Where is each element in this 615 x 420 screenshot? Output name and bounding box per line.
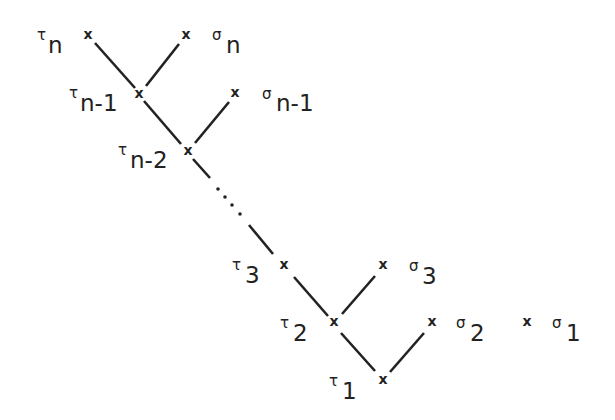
label-subscript: n-1 bbox=[276, 90, 314, 116]
node-mark-sigma-3: x bbox=[378, 256, 387, 272]
edge-ellipsis-to-tau-3 bbox=[249, 225, 273, 254]
edge-sigma-3-to-tau-2 bbox=[342, 276, 375, 314]
node-mark-tau-n: x bbox=[83, 26, 92, 42]
edge-tau-n-2-to-ellipsis bbox=[193, 159, 210, 178]
label-symbol: σ bbox=[262, 85, 272, 103]
label-symbol: σ bbox=[212, 26, 222, 44]
label-subscript: 1 bbox=[566, 320, 581, 346]
label-symbol: σ bbox=[409, 257, 419, 275]
ellipsis-dots bbox=[216, 187, 242, 216]
edge-sigma-n-to-tau-n-1 bbox=[146, 44, 179, 86]
node-mark-tau-1: x bbox=[378, 371, 387, 387]
edge-sigma-2-to-tau-1 bbox=[390, 333, 424, 372]
edge-sigma-n-1-to-tau-n-2 bbox=[195, 102, 229, 143]
node-mark-sigma-n-1: x bbox=[230, 84, 239, 100]
label-symbol: τ bbox=[232, 256, 241, 274]
edge-tau-n-1-to-tau-n-2 bbox=[144, 101, 181, 144]
label-symbol: σ bbox=[456, 314, 466, 332]
label-subscript: 2 bbox=[293, 320, 308, 346]
node-mark-tau-n-1: x bbox=[134, 85, 143, 101]
node-mark-tau-n-2: x bbox=[183, 142, 192, 158]
label-subscript: 3 bbox=[422, 263, 437, 289]
label-symbol: τ bbox=[280, 314, 289, 332]
label-subscript: n-1 bbox=[80, 90, 118, 116]
label-symbol: τ bbox=[329, 372, 338, 390]
edge-tau-2-to-tau-1 bbox=[341, 333, 375, 371]
label-symbol: τ bbox=[69, 84, 78, 102]
edge-tau-n-to-tau-n-1 bbox=[95, 43, 135, 88]
tree-edges bbox=[0, 0, 615, 420]
label-subscript: 3 bbox=[245, 262, 260, 288]
label-symbol: τ bbox=[118, 141, 127, 159]
node-mark-sigma-2: x bbox=[427, 313, 436, 329]
label-symbol: τ bbox=[37, 26, 46, 44]
node-mark-tau-2: x bbox=[329, 313, 338, 329]
label-subscript: 1 bbox=[342, 378, 357, 404]
label-subscript: n bbox=[48, 32, 63, 58]
node-mark-sigma-1: x bbox=[522, 313, 531, 329]
label-symbol: σ bbox=[552, 314, 562, 332]
node-mark-tau-3: x bbox=[279, 256, 288, 272]
label-subscript: n-2 bbox=[130, 147, 168, 173]
node-mark-sigma-n: x bbox=[181, 26, 190, 42]
label-subscript: n bbox=[226, 32, 241, 58]
edge-tau-3-to-tau-2 bbox=[294, 277, 328, 316]
label-subscript: 2 bbox=[470, 320, 485, 346]
